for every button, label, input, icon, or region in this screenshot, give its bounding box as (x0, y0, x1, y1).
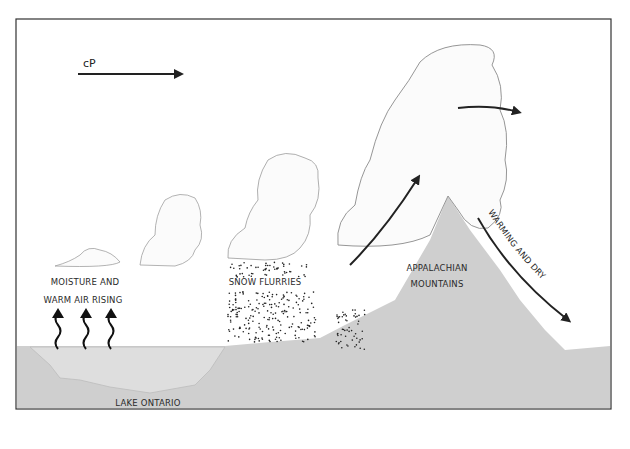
snow-dot (354, 309, 356, 311)
snow-dot (252, 321, 254, 323)
snow-dot (255, 332, 257, 334)
snow-dot (302, 328, 304, 330)
snow-dot (249, 317, 251, 319)
snow-dot (287, 316, 289, 318)
snow-dot (244, 324, 246, 326)
snow-dot (264, 297, 266, 299)
snow-dot (273, 266, 275, 268)
snow-dot (282, 274, 284, 276)
snow-dot (305, 312, 307, 314)
snow-dot (235, 298, 237, 300)
snow-dot (254, 311, 256, 313)
snow-dot (265, 302, 267, 304)
snow-dot (258, 338, 260, 340)
snow-dot (314, 331, 316, 333)
snow-dot (257, 308, 259, 310)
snow-dot (304, 329, 306, 331)
snow-dot (342, 316, 344, 318)
snow-dot (276, 333, 278, 335)
snow-dot (263, 305, 265, 307)
snow-dot (257, 267, 259, 269)
snow-dot (258, 323, 260, 325)
snow-dot (257, 293, 259, 295)
snow-dot (295, 337, 297, 339)
snow-dot (359, 347, 361, 349)
snow-dot (309, 326, 311, 328)
snow-dot (355, 313, 357, 315)
snow-dot (261, 337, 263, 339)
snow-dot (255, 337, 257, 339)
snow-dot (310, 322, 312, 324)
snow-dot (243, 262, 245, 264)
snow-dot (355, 333, 357, 335)
snow-dot (295, 330, 297, 332)
snow-dot (269, 291, 271, 293)
snow-dot (248, 275, 250, 277)
snow-dot (271, 304, 273, 306)
snow-dot (345, 336, 347, 338)
snow-dot (282, 310, 284, 312)
snow-dot (230, 316, 232, 318)
snow-dot (258, 326, 260, 328)
snow-dot (252, 316, 254, 318)
snow-dot (280, 324, 282, 326)
snow-dot (229, 331, 231, 333)
snow-dot (243, 331, 245, 333)
snow-dot (275, 312, 277, 314)
snow-dot (289, 271, 291, 273)
snow-dot (249, 327, 251, 329)
snow-dot (240, 265, 242, 267)
snow-dot (298, 304, 300, 306)
snow-dot (276, 305, 278, 307)
snow-dot (267, 319, 269, 321)
snow-dot (229, 307, 231, 309)
snow-dot (239, 327, 241, 329)
snow-dot (275, 338, 277, 340)
snow-dot (291, 292, 293, 294)
snow-dot (353, 315, 355, 317)
snow-dot (340, 334, 342, 336)
snow-dot (275, 318, 277, 320)
snow-dot (347, 345, 349, 347)
moisture-label-line2: WARM AIR RISING (44, 295, 123, 305)
snow-dot (273, 329, 275, 331)
snow-dot (250, 265, 252, 267)
snow-dot (245, 318, 247, 320)
snow-dot (342, 312, 344, 314)
snow-dot (238, 311, 240, 313)
snow-dot (283, 264, 285, 266)
snow-dot (235, 302, 237, 304)
lake-ontario-label: LAKE ONTARIO (115, 398, 180, 408)
snow-dot (361, 338, 363, 340)
snow-dot (269, 335, 271, 337)
snow-dot (337, 333, 339, 335)
snow-dot (239, 308, 241, 310)
snow-dot (237, 308, 239, 310)
snow-dot (352, 339, 354, 341)
snow-dot (235, 295, 237, 297)
snow-dot (306, 264, 308, 266)
snow-dot (284, 272, 286, 274)
snow-dot (235, 292, 237, 294)
snow-dot (276, 268, 278, 270)
snow-dot (271, 307, 273, 309)
snow-dot (342, 329, 344, 331)
snow-dot (261, 296, 263, 298)
snow-dot (314, 336, 316, 338)
snow-dot (228, 329, 230, 331)
snow-dot (304, 293, 306, 295)
snow-dot (280, 339, 282, 341)
snow-dot (356, 316, 358, 318)
snow-dot (227, 316, 229, 318)
snow-dot (230, 311, 232, 313)
snow-dot (343, 314, 345, 316)
snow-dot (346, 329, 348, 331)
snow-dot (346, 315, 348, 317)
snow-dot (314, 322, 316, 324)
snow-dot (315, 319, 317, 321)
snow-dot (281, 298, 283, 300)
snow-dot (235, 314, 237, 316)
snow-dot (283, 265, 285, 267)
snow-dot (283, 294, 285, 296)
snow-dot (269, 341, 271, 343)
